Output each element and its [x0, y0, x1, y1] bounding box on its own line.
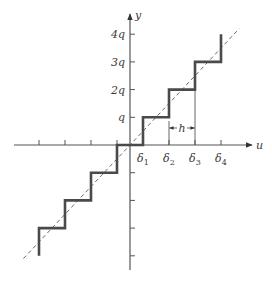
step-width-dimension: h: [169, 90, 195, 145]
x-tick-labels: δ1 δ2 δ3 δ4: [137, 152, 227, 167]
delta-subscript: 1: [144, 158, 149, 167]
x-tick-label-delta2: δ2: [163, 152, 175, 167]
x-tick-label-delta4: δ4: [215, 152, 227, 167]
step-width-label: h: [178, 122, 185, 135]
delta-subscript: 2: [170, 158, 175, 167]
delta-subscript: 3: [196, 158, 201, 167]
x-tick-label-delta1: δ1: [137, 152, 149, 167]
y-tick-label-q: q: [118, 111, 125, 124]
y-axis-label: y: [134, 9, 142, 22]
delta-subscript: 4: [222, 158, 227, 167]
x-axis-label: u: [256, 139, 263, 152]
y-tick-label-4q: 4q: [110, 28, 125, 41]
y-tick-label-3q: 3q: [111, 56, 125, 69]
y-tick-label-2q: 2q: [110, 84, 125, 97]
x-tick-label-delta3: δ3: [189, 152, 201, 167]
quantizer-diagram: u y q 2q 3q 4q δ1 δ2 δ3 δ4 h: [0, 0, 272, 286]
y-tick-labels: q 2q 3q 4q: [110, 28, 125, 124]
